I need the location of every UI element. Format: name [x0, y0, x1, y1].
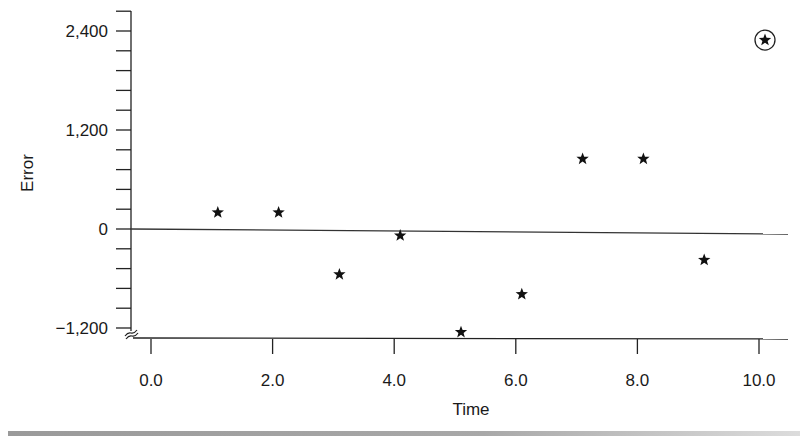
star-marker-icon	[455, 326, 467, 338]
y-axis-ticks	[116, 11, 131, 328]
y-tick-label: 2,400	[65, 22, 108, 41]
zero-line	[131, 229, 788, 234]
y-axis-title: Error	[18, 154, 37, 192]
star-marker-icon	[576, 152, 588, 164]
star-marker-icon	[212, 206, 224, 218]
x-tick-labels: 0.02.04.06.08.010.0	[139, 371, 775, 390]
y-tick-label: −1,200	[56, 319, 108, 338]
star-marker-icon	[698, 253, 710, 265]
x-tick-label: 2.0	[261, 371, 285, 390]
star-marker-icon	[272, 206, 284, 218]
x-axis-title: Time	[452, 400, 489, 419]
x-tick-label: 4.0	[382, 371, 406, 390]
x-tick-label: 0.0	[139, 371, 163, 390]
star-marker-icon	[333, 268, 345, 280]
data-points	[212, 30, 775, 337]
y-tick-label: 1,200	[65, 121, 108, 140]
x-tick-label: 6.0	[504, 371, 528, 390]
star-marker-icon	[759, 34, 771, 46]
x-tick-label: 8.0	[626, 371, 650, 390]
x-tick-label: 10.0	[742, 371, 775, 390]
star-marker-icon	[516, 288, 528, 300]
y-axis	[116, 11, 131, 331]
star-marker-icon	[637, 152, 649, 164]
x-axis	[133, 338, 788, 354]
y-tick-labels: 2,4001,2000−1,200	[56, 22, 108, 338]
scatter-chart: 2,4001,2000−1,200 0.02.04.06.08.010.0 Ti…	[0, 0, 800, 436]
y-tick-label: 0	[99, 220, 108, 239]
bottom-divider	[8, 431, 800, 436]
x-axis-ticks	[151, 339, 759, 354]
